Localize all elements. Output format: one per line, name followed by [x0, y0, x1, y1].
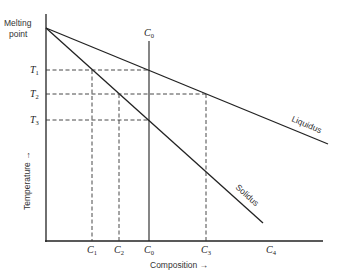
c1-label: C1 — [87, 244, 97, 256]
t1-label: T1 — [30, 64, 39, 76]
t2-label: T2 — [30, 88, 39, 100]
c4-label: C4 — [266, 244, 277, 256]
c0-top-label: C0 — [144, 27, 154, 39]
c3-label: C3 — [201, 244, 211, 256]
t3-label: T3 — [30, 114, 39, 126]
melting-label-line1: Melting — [4, 18, 32, 28]
liquidus-label: Liquidus — [290, 114, 323, 136]
c2-label: C2 — [114, 244, 124, 256]
solidus-label: Solidus — [234, 182, 261, 208]
c0-label: C0 — [144, 244, 154, 256]
melting-label-line2: point — [9, 29, 28, 39]
x-axis-title: Composition → — [150, 260, 208, 270]
phase-diagram: Melting point C0 T1 T2 T3 C1 C2 C0 C3 C4… — [0, 0, 343, 280]
liquidus-line — [46, 28, 328, 144]
y-axis-title: Temperature → — [22, 151, 32, 210]
solidus-line — [46, 28, 263, 223]
